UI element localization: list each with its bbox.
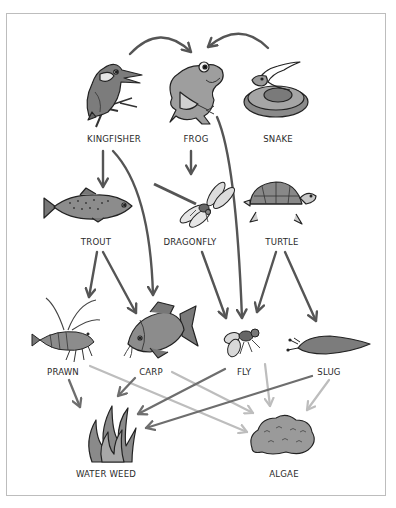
arrow-trout-carp [103, 252, 136, 313]
trout-icon [44, 188, 132, 222]
label-carp: CARP [139, 366, 163, 377]
label-dragonfly: DRAGONFLY [164, 236, 217, 247]
label-frog: FROG [183, 133, 208, 144]
label-algae: ALGAE [269, 468, 298, 479]
label-trout: TROUT [81, 236, 111, 247]
label-water-weed: WATER WEED [76, 468, 136, 479]
slug-icon [287, 336, 370, 354]
arrow-slug-algae [307, 380, 329, 410]
label-snake: SNAKE [263, 133, 293, 144]
arrow-prawn-water-weed [69, 380, 80, 407]
algae-icon [251, 415, 314, 454]
label-kingfisher: KINGFISHER [87, 133, 141, 144]
label-prawn: PRAWN [47, 366, 79, 377]
kingfisher-icon [87, 64, 142, 127]
arrow-frog-fly [217, 117, 242, 318]
arrow-trout-prawn [89, 252, 97, 297]
label-turtle: TURTLE [265, 236, 298, 247]
water-weed-icon [89, 406, 136, 462]
arrow-dragonfly-fly [202, 252, 226, 318]
frog-icon [170, 62, 223, 124]
prawn-icon [32, 298, 100, 362]
turtle-icon [244, 182, 316, 224]
label-fly: FLY [237, 366, 251, 377]
arrow-snake-frog [208, 34, 268, 48]
arrow-fly-algae [265, 364, 270, 406]
fly-icon [223, 329, 260, 359]
label-slug: SLUG [317, 366, 340, 377]
dragonfly-icon [154, 180, 237, 231]
snake-icon [244, 62, 308, 117]
arrow-turtle-slug [285, 252, 316, 321]
food-web-diagram [0, 0, 396, 508]
arrow-turtle-fly [257, 252, 276, 312]
arrow-kingfisher-carp [113, 151, 153, 295]
arrow-kingfisher-frog [130, 37, 191, 54]
